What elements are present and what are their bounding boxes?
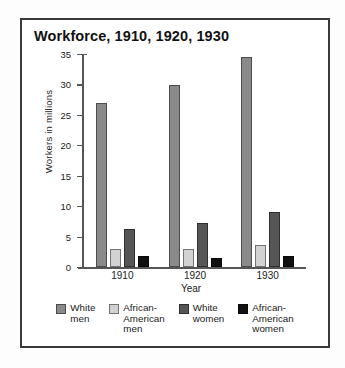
bar-1920-series-1 xyxy=(183,249,194,267)
y-axis-label: Workers in millions xyxy=(43,70,54,194)
axes: 05101520253035 191019201930 Year xyxy=(82,54,300,267)
bar-1910-series-2 xyxy=(124,229,135,267)
x-axis-line xyxy=(78,267,306,269)
legend-item-1: African-Americanmen xyxy=(109,303,164,335)
y-tick-label-15: 15 xyxy=(60,170,71,181)
y-tick-label-30: 30 xyxy=(60,79,71,90)
bar-1920-series-2 xyxy=(197,223,208,267)
bar-1930-series-2 xyxy=(269,212,280,267)
bar-group-1910 xyxy=(96,54,149,267)
y-tick-label-35: 35 xyxy=(60,49,71,60)
y-tick-label-25: 25 xyxy=(60,109,71,120)
x-tick-label-1910: 1910 xyxy=(111,270,133,281)
bar-1930-series-0 xyxy=(241,57,252,267)
legend-label-3: African-Americanwomen xyxy=(252,303,293,335)
x-axis-label: Year xyxy=(181,283,201,294)
chart-page: Workforce, 1910, 1920, 1930 Workers in m… xyxy=(0,0,345,368)
chart-card: Workforce, 1910, 1920, 1930 Workers in m… xyxy=(20,18,330,348)
bar-group-1930 xyxy=(241,54,294,267)
bar-1910-series-1 xyxy=(110,249,121,267)
legend-swatch-icon-1 xyxy=(109,304,119,314)
y-tick-0: 0 xyxy=(77,267,82,268)
bar-1910-series-0 xyxy=(96,103,107,267)
legend-swatch-icon-3 xyxy=(238,304,248,314)
bar-1930-series-1 xyxy=(255,245,266,267)
x-tick-label-1930: 1930 xyxy=(257,270,279,281)
bar-group-1920 xyxy=(169,54,222,267)
y-tick-label-5: 5 xyxy=(66,231,71,242)
plot-area: Workers in millions 05101520253035 19101… xyxy=(22,48,328,298)
y-tick-label-20: 20 xyxy=(60,140,71,151)
bar-1920-series-0 xyxy=(169,85,180,267)
legend-item-3: African-Americanwomen xyxy=(238,303,293,335)
legend-label-0: Whitemen xyxy=(70,303,95,324)
legend-item-0: Whitemen xyxy=(56,303,95,324)
legend-swatch-icon-2 xyxy=(179,304,189,314)
bar-1910-series-3 xyxy=(138,256,149,267)
bar-1930-series-3 xyxy=(283,256,294,267)
legend-label-1: African-Americanmen xyxy=(123,303,164,335)
legend-label-2: Whitewomen xyxy=(193,303,225,324)
y-tick-label-10: 10 xyxy=(60,201,71,212)
x-tick-label-1920: 1920 xyxy=(184,270,206,281)
chart-legend: WhitemenAfrican-AmericanmenWhitewomenAfr… xyxy=(22,303,328,347)
y-tick-label-0: 0 xyxy=(66,262,71,273)
legend-swatch-icon-0 xyxy=(56,304,66,314)
chart-title: Workforce, 1910, 1920, 1930 xyxy=(34,28,229,44)
bar-1920-series-3 xyxy=(211,258,222,267)
legend-item-2: Whitewomen xyxy=(179,303,225,324)
bar-group-container xyxy=(82,54,300,267)
